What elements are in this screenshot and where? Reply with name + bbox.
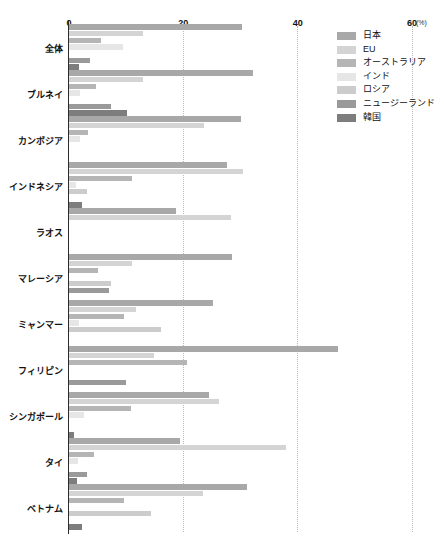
bar-1-1 xyxy=(69,77,143,82)
bar-5-4 xyxy=(69,281,111,286)
bar-9-0 xyxy=(69,438,180,443)
bar-3-4 xyxy=(69,189,87,194)
legend-label-5: ニュージーランド xyxy=(363,97,435,110)
bar-9-2 xyxy=(69,452,94,457)
bar-6-3 xyxy=(69,320,79,325)
bar-9-5 xyxy=(69,472,87,477)
legend-swatch-4 xyxy=(337,86,356,94)
bar-7-5 xyxy=(69,380,126,385)
bar-8-0 xyxy=(69,392,209,397)
category-label-1: ブルネイ xyxy=(27,90,63,100)
bar-5-5 xyxy=(69,288,109,293)
bar-8-2 xyxy=(69,406,131,411)
legend-label-2: オーストラリア xyxy=(363,56,426,69)
bar-0-0 xyxy=(69,24,242,29)
bar-3-2 xyxy=(69,176,132,181)
legend-label-1: EU xyxy=(363,43,376,56)
bar-2-2 xyxy=(69,130,88,135)
clipped-header-text xyxy=(0,0,444,8)
bar-7-1 xyxy=(69,353,154,358)
bar-5-1 xyxy=(69,261,132,266)
bar-10-1 xyxy=(69,491,203,496)
bar-7-0 xyxy=(69,346,338,351)
bar-5-2 xyxy=(69,268,98,273)
bar-0-5 xyxy=(69,58,90,63)
bar-5-0 xyxy=(69,254,232,259)
category-label-8: シンガポール xyxy=(9,412,63,422)
bar-10-0 xyxy=(69,484,247,489)
bar-3-6 xyxy=(69,202,82,207)
bar-3-1 xyxy=(69,169,243,174)
bar-6-1 xyxy=(69,307,136,312)
bar-1-5 xyxy=(69,104,111,109)
x-axis-tick-label-40: 40 xyxy=(293,18,303,28)
bar-6-4 xyxy=(69,327,161,332)
bar-0-2 xyxy=(69,38,101,43)
bar-10-6 xyxy=(69,524,82,529)
category-label-4: ラオス xyxy=(36,228,63,238)
category-label-3: インドネシア xyxy=(9,182,63,192)
bar-8-1 xyxy=(69,399,219,404)
x-axis-unit-label: (%) xyxy=(416,19,427,27)
gridline-40 xyxy=(297,26,298,532)
legend-label-6: 韓国 xyxy=(363,111,381,124)
bar-4-0 xyxy=(69,208,176,213)
bar-0-1 xyxy=(69,31,143,36)
bar-8-6 xyxy=(69,432,74,437)
bar-9-6 xyxy=(69,478,77,483)
bar-6-0 xyxy=(69,300,213,305)
legend-label-3: インド xyxy=(363,70,390,83)
legend-swatch-1 xyxy=(337,46,356,54)
bar-0-6 xyxy=(69,64,79,69)
category-label-5: マレーシア xyxy=(18,274,63,284)
category-label-2: カンボジア xyxy=(18,136,63,146)
bar-2-0 xyxy=(69,116,241,121)
bar-0-3 xyxy=(69,44,123,49)
bar-1-3 xyxy=(69,90,80,95)
category-label-7: フィリピン xyxy=(18,366,63,376)
bar-4-1 xyxy=(69,215,231,220)
bar-10-2 xyxy=(69,498,124,503)
legend-swatch-2 xyxy=(337,59,356,67)
gridline-20 xyxy=(183,26,184,532)
bar-6-2 xyxy=(69,314,124,319)
legend-swatch-6 xyxy=(337,114,356,122)
category-label-9: タイ xyxy=(45,458,63,468)
bar-10-4 xyxy=(69,511,151,516)
legend-label-4: ロシア xyxy=(363,83,390,96)
bar-3-0 xyxy=(69,162,227,167)
category-label-10: ベトナム xyxy=(27,504,63,514)
legend-label-0: 日本 xyxy=(363,29,381,42)
bar-3-3 xyxy=(69,182,76,187)
bar-1-6 xyxy=(69,110,127,115)
bar-2-1 xyxy=(69,123,204,128)
bar-9-1 xyxy=(69,445,286,450)
bar-2-3 xyxy=(69,136,80,141)
horizontal-bar-chart: 0204060(%)全体ブルネイカンボジアインドネシアラオスマレーシアミャンマー… xyxy=(0,0,444,538)
legend-swatch-3 xyxy=(337,73,356,81)
category-label-0: 全体 xyxy=(45,44,63,54)
legend-swatch-5 xyxy=(337,100,356,108)
legend-swatch-0 xyxy=(337,32,356,40)
bar-9-3 xyxy=(69,458,78,463)
bar-7-2 xyxy=(69,360,187,365)
bar-8-3 xyxy=(69,412,84,417)
y-axis-line xyxy=(68,22,69,534)
category-label-6: ミャンマー xyxy=(18,320,63,330)
bar-1-0 xyxy=(69,70,253,75)
bar-1-2 xyxy=(69,84,96,89)
